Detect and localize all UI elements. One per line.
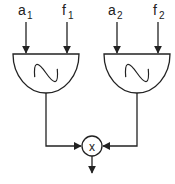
connector-osc1-to-multiplier bbox=[46, 93, 81, 146]
svg-text:1: 1 bbox=[68, 10, 74, 21]
input-label-a1: a 1 bbox=[18, 2, 33, 21]
ring-modulation-diagram: a 1 f 1 a 2 f 2 x bbox=[0, 0, 175, 184]
multiplier-node: x bbox=[82, 136, 102, 156]
input-label-a2: a 2 bbox=[108, 2, 123, 21]
svg-text:f: f bbox=[153, 2, 157, 18]
svg-text:2: 2 bbox=[159, 10, 165, 21]
svg-text:2: 2 bbox=[117, 10, 123, 21]
svg-text:a: a bbox=[18, 2, 26, 18]
svg-text:a: a bbox=[108, 2, 116, 18]
svg-text:f: f bbox=[62, 2, 66, 18]
connector-osc2-to-multiplier bbox=[103, 93, 137, 146]
input-label-f1: f 1 bbox=[62, 2, 74, 21]
input-label-f2: f 2 bbox=[153, 2, 165, 21]
multiply-icon: x bbox=[89, 140, 95, 154]
svg-text:1: 1 bbox=[27, 10, 33, 21]
